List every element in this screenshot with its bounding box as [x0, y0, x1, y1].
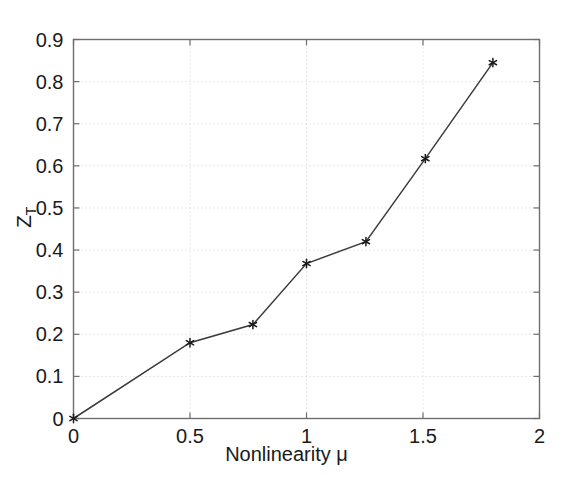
y-tick-label: 0.7 [0, 114, 64, 134]
y-tick-label: 0 [0, 409, 64, 429]
y-tick-label: 0.9 [0, 30, 64, 50]
y-tick-label: 0.8 [0, 72, 64, 92]
y-tick-label: 0.6 [0, 156, 64, 176]
figure-container: 00.10.20.30.40.50.60.70.80.9 00.511.52 N… [0, 0, 573, 477]
data-series-line [74, 63, 493, 419]
y-tick-label: 0.4 [0, 240, 64, 260]
y-tick-label: 0.2 [0, 324, 64, 344]
y-axis-title: ZT [12, 207, 39, 228]
y-tick-label: 0.3 [0, 282, 64, 302]
y-axis-title-base: Z [12, 215, 35, 228]
y-tick-label: 0.1 [0, 366, 64, 386]
chart-canvas [0, 0, 573, 477]
x-axis-title: Nonlinearity μ [0, 443, 573, 466]
series-polyline [74, 63, 493, 419]
y-axis-title-subscript: T [23, 207, 39, 216]
data-series-markers [70, 58, 497, 422]
